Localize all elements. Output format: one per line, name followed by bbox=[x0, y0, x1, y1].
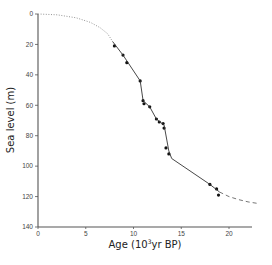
y-tick-label: 140 bbox=[22, 223, 33, 230]
x-tick-label: 20 bbox=[225, 230, 233, 237]
x-axis-label: Age (103yr BP) bbox=[109, 238, 182, 250]
y-tick-label: 40 bbox=[26, 71, 34, 78]
x-tick-label: 10 bbox=[130, 230, 138, 237]
y-axis-label: Sea level (m) bbox=[5, 87, 16, 153]
dotted-line bbox=[38, 14, 113, 41]
y-tick-label: 100 bbox=[22, 162, 33, 169]
y-tick-label: 120 bbox=[22, 193, 33, 200]
solid-line bbox=[113, 41, 220, 192]
x-tick-label: 5 bbox=[84, 230, 88, 237]
y-tick-label: 60 bbox=[26, 102, 34, 109]
y-tick-label: 0 bbox=[29, 10, 33, 17]
dashed-line bbox=[220, 192, 258, 203]
data-point bbox=[217, 193, 220, 196]
sea-level-chart: 02040608010012014005101520 Age (103yr BP… bbox=[0, 0, 272, 265]
data-point bbox=[164, 146, 167, 149]
x-tick-label: 15 bbox=[178, 230, 186, 237]
x-tick-label: 0 bbox=[36, 230, 40, 237]
y-tick-label: 80 bbox=[26, 132, 34, 139]
tick-labels: 02040608010012014005101520 bbox=[22, 10, 233, 237]
plot-area bbox=[38, 14, 258, 203]
y-tick-label: 20 bbox=[26, 41, 34, 48]
axes bbox=[35, 14, 252, 229]
